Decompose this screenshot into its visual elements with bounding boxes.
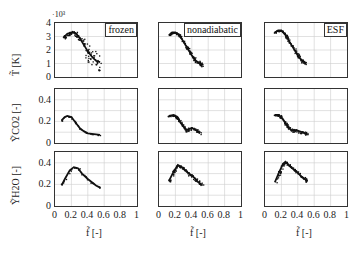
plot-area (265, 89, 347, 143)
y-tick-label: 0.2 (39, 116, 52, 126)
plot-area (159, 152, 241, 206)
x-axis-label: f̃ [-] (296, 227, 312, 238)
x-tick-label: 0.8 (218, 210, 231, 220)
x-tick-label: 0.6 (97, 210, 110, 220)
x-tick-label: 1 (238, 210, 243, 220)
x-tick-label: 0.2 (274, 210, 287, 220)
y-tick-label: 0.4 (39, 95, 52, 105)
plot-area (265, 152, 347, 206)
x-tick-label: 0.2 (168, 210, 181, 220)
plot-panel-nonadiabatic-YCO2 (158, 88, 242, 144)
x-axis-label: f̃ [-] (190, 227, 206, 238)
x-axis-label: f̃ [-] (86, 227, 102, 238)
y-tick-label: 3 (46, 32, 51, 42)
y-tick-label: 1 (46, 59, 51, 69)
y-tick-label: 0.4 (39, 158, 52, 168)
x-tick-label: 0.8 (114, 210, 127, 220)
plot-panel-frozen-YCO2 (54, 88, 138, 144)
x-tick-label: 0 (156, 210, 161, 220)
legend-nonadiabatic: nonadiabatic (184, 23, 241, 37)
x-tick-label: 0.4 (81, 210, 94, 220)
plot-panel-frozen-YH2O (54, 151, 138, 207)
y-tick-label: 0 (46, 72, 51, 82)
legend-frozen: frozen (105, 23, 137, 37)
y-tick-label: 0 (46, 201, 51, 211)
plot-area (55, 152, 137, 206)
x-tick-label: 0 (262, 210, 267, 220)
y-tick-label: 2 (46, 45, 51, 55)
plot-area (159, 89, 241, 143)
y-tick-label: 0.2 (39, 179, 52, 189)
x-tick-label: 0.6 (307, 210, 320, 220)
x-tick-label: 0 (52, 210, 57, 220)
plot-panel-ESF-YCO2 (264, 88, 348, 144)
plot-panel-nonadiabatic-YH2O (158, 151, 242, 207)
x-tick-label: 1 (344, 210, 349, 220)
x-tick-label: 0.4 (291, 210, 304, 220)
y-tick-label: 0 (46, 138, 51, 148)
x-tick-label: 0.8 (324, 210, 337, 220)
y-axis-label: ỸH2O [-] (10, 166, 21, 205)
y-axis-label: T̃ [K] (10, 54, 21, 76)
y-axis-label: ỸCO2 [-] (10, 103, 21, 142)
x-tick-label: 0.6 (201, 210, 214, 220)
x-tick-label: 0.4 (185, 210, 198, 220)
y-scale-exponent: ·10³ (52, 10, 65, 19)
plot-area (55, 89, 137, 143)
x-tick-label: 0.2 (64, 210, 77, 220)
x-tick-label: 1 (134, 210, 139, 220)
legend-ESF: ESF (324, 23, 347, 37)
plot-panel-ESF-YH2O (264, 151, 348, 207)
y-tick-label: 4 (46, 18, 51, 28)
